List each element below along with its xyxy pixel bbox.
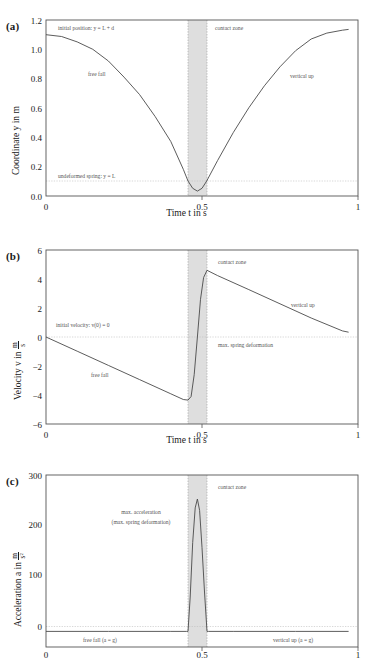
panel-c: (c) Acceleration a in m s² 300 200 100 0… [0, 455, 373, 663]
panel-b-xlabel: Time t in s [0, 435, 373, 445]
panel-b-anno-max-spring-deformation: max. spring deformation [218, 342, 273, 348]
panel-b: (b) Velocity v in m s 6 4 2 0 −2 −4 −6 0… [0, 230, 373, 455]
panel-b-ytick-2: 2 [38, 304, 43, 314]
panel-a-xlabel: Time t in s [0, 208, 373, 218]
panel-b-anno-initial-velocity: initial velocity: v(0) = 0 [56, 322, 110, 329]
panel-b-ytick-0: 6 [38, 246, 43, 256]
panel-b-ytick-1: 4 [38, 275, 43, 285]
panel-a-yticks: 1.2 1.0 0.8 0.6 0.4 0.2 0.0 [31, 16, 43, 202]
panel-c-plot: 300 200 100 0 0 0.5 1 max. acceleration … [0, 469, 373, 659]
panel-a-anno-contact-zone: contact zone [215, 25, 244, 31]
panel-b-ytick-4: −2 [32, 362, 42, 372]
panel-c-xtick-2: 1 [356, 650, 361, 659]
panel-c-xtick-1: 0.5 [196, 650, 208, 659]
panel-a-ytick-2: 0.8 [31, 74, 43, 84]
panel-c-anno-max-acceleration: max. acceleration [121, 509, 161, 515]
panel-b-anno-contact-zone: contact zone [218, 259, 247, 265]
panel-a-anno-vertical-up: vertical up [290, 73, 314, 79]
panel-a-anno-free-fall: free fall [88, 71, 106, 77]
panel-a-ytick-3: 0.6 [31, 104, 43, 114]
panel-c-anno-free-fall: free fall (a = g) [83, 637, 117, 644]
panel-c-xtick-0: 0 [44, 650, 49, 659]
panel-c-ytick-2: 100 [29, 570, 43, 580]
panel-b-ytick-5: −4 [32, 391, 42, 401]
panel-a-ytick-1: 1.0 [31, 45, 43, 55]
panel-c-anno-vertical-up: vertical up (a = g) [273, 637, 313, 644]
panel-c-xticks: 0 0.5 1 [44, 650, 361, 659]
panel-c-ytick-3: 0 [38, 622, 43, 632]
panel-b-plot: 6 4 2 0 −2 −4 −6 0 0.5 1 initial velocit… [0, 244, 373, 442]
panel-c-anno-contact-zone: contact zone [218, 484, 247, 490]
panel-a-ytick-4: 0.4 [31, 133, 43, 143]
panel-b-anno-free-fall: free fall [91, 372, 109, 378]
panel-a-plot: 1.2 1.0 0.8 0.6 0.4 0.2 0.0 0 0.5 1 init… [0, 14, 373, 214]
panel-a-anno-initial-position: initial position: y = L + d [58, 25, 114, 31]
panel-b-anno-vertical-up: vertical up [291, 302, 315, 308]
panel-a-ytick-5: 0.2 [31, 162, 42, 172]
panel-c-anno-max-spring-deformation: (max. spring deformation) [112, 519, 171, 526]
panel-c-ytick-0: 300 [29, 471, 43, 481]
panel-a-ytick-6: 0.0 [31, 192, 43, 202]
panel-b-ytick-6: −6 [32, 420, 42, 430]
panel-b-yticks: 6 4 2 0 −2 −4 −6 [32, 246, 42, 430]
panel-a-ytick-0: 1.2 [31, 16, 42, 26]
panel-b-ytick-3: 0 [38, 333, 43, 343]
panel-c-yticks: 300 200 100 0 [29, 471, 43, 633]
panel-c-ytick-1: 200 [29, 520, 43, 530]
panel-a-contact-zone [188, 20, 207, 196]
panel-a-anno-undeformed-spring: undeformed spring: y = L [58, 173, 116, 179]
panel-a: (a) Coordinate y in m 1.2 1.0 0.8 0.6 0.… [0, 0, 373, 230]
